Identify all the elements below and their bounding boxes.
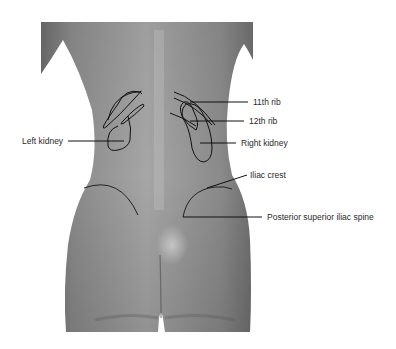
psis-label: Posterior superior iliac spine — [267, 212, 374, 222]
left-kidney-label: Left kidney — [22, 136, 63, 146]
anatomy-figure — [0, 0, 396, 349]
rib-11-label: 11th rib — [253, 97, 281, 107]
iliac-crest-label: Iliac crest — [250, 170, 286, 180]
rib-12-label: 12th rib — [249, 116, 277, 126]
right-kidney-label: Right kidney — [241, 138, 288, 148]
